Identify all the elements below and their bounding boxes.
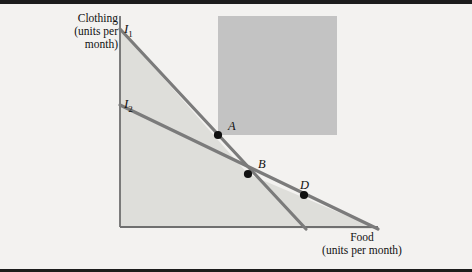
curve-label-i2-subscript: 2 (128, 104, 133, 114)
point-label-d: D (300, 178, 309, 193)
y-axis-label: Clothing (units per month) (0, 12, 118, 51)
curve-label-i1: I1 (124, 21, 133, 39)
curve-label-i1-subscript: 1 (128, 29, 133, 39)
curve-label-i2: I2 (124, 96, 133, 114)
point-label-a: A (228, 119, 236, 134)
x-axis-label: Food (units per month) (292, 231, 432, 257)
economics-budget-line-figure: Clothing (units per month) Food (units p… (0, 0, 472, 272)
highlight-rectangle (218, 16, 337, 135)
point-label-b: B (258, 157, 266, 172)
data-point-a (214, 131, 222, 139)
data-point-b (244, 170, 252, 178)
